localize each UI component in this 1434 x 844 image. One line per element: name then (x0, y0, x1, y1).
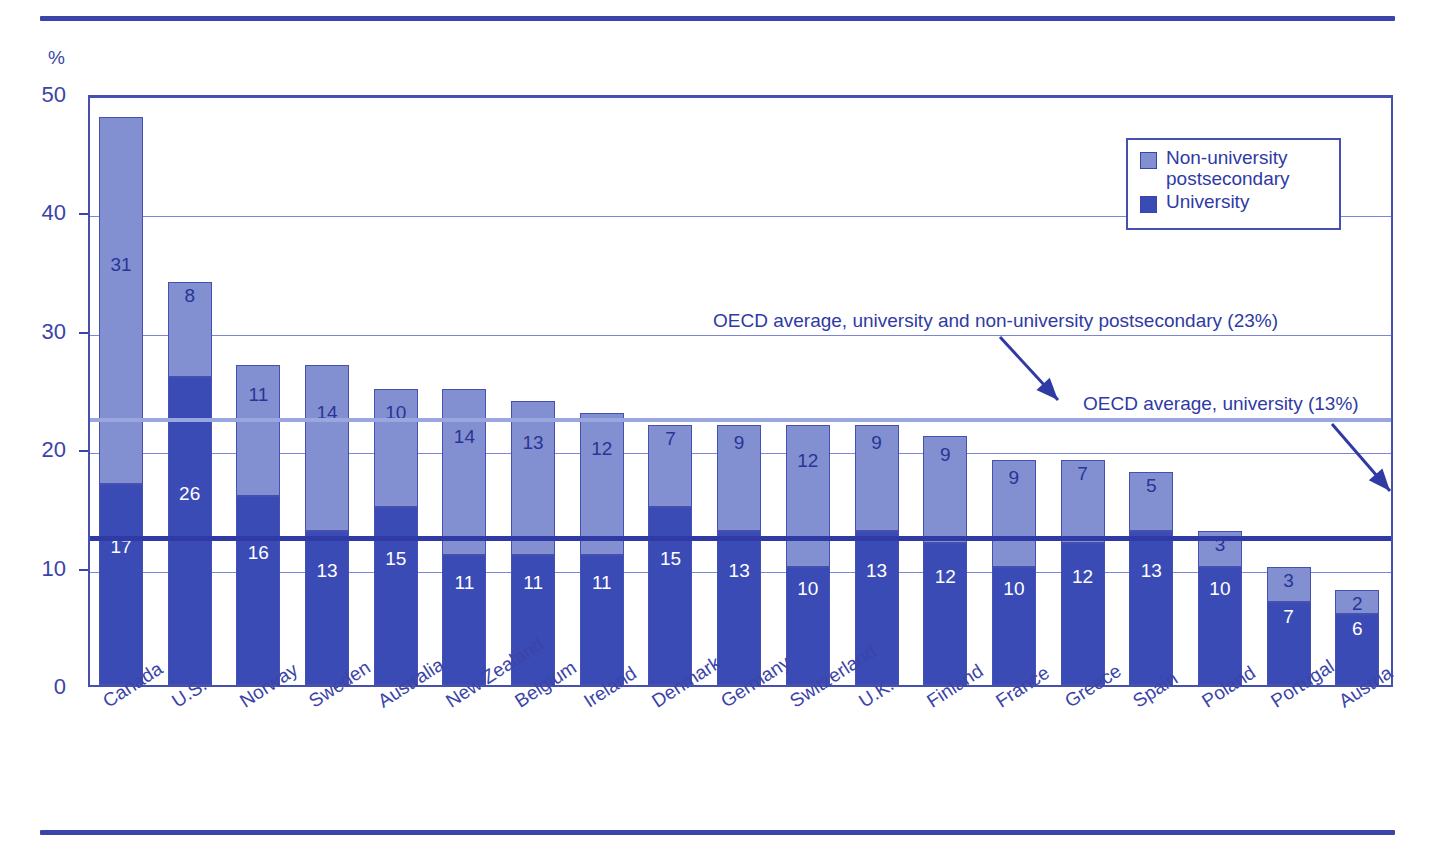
chart-legend: Non-universitypostsecondary University (1126, 138, 1341, 230)
legend-swatch-non-university-icon (1140, 152, 1157, 169)
figure-container: % 01020304050 17312681611131415101114111… (0, 0, 1434, 844)
legend-item-non-university: Non-universitypostsecondary (1140, 148, 1329, 190)
legend-label-university: University (1166, 192, 1249, 213)
legend-swatch-university-icon (1140, 196, 1157, 213)
arrow-to-oecd-average-university (0, 0, 1434, 844)
legend-label-non-university: Non-universitypostsecondary (1166, 148, 1290, 190)
legend-item-university: University (1140, 192, 1329, 213)
